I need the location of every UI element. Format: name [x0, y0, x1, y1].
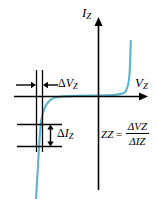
axis-lines	[14, 17, 148, 190]
delta-v-label-delta: Δ	[58, 76, 66, 90]
vertical-axis-arrowhead	[95, 17, 103, 26]
vertical-axis-label: IZ	[82, 6, 91, 21]
delta-i-label: ΔIZ	[57, 127, 73, 141]
delta-v-label-symbol: V	[66, 76, 73, 90]
zener-iv-characteristic-figure: IZ VZ ΔVZ ΔIZ ZZ = ΔVZ ΔIZ	[0, 0, 158, 199]
formula-lhs: ZZ	[101, 128, 113, 140]
formula-fraction: ΔVZ ΔIZ	[126, 120, 149, 147]
horizontal-axis-label: VZ	[135, 76, 148, 91]
formula-numerator: ΔVZ	[126, 120, 149, 133]
formula-numerator-subscript: Z	[141, 120, 147, 132]
formula-denominator-subscript: Z	[139, 135, 145, 147]
delta-v-label-subscript: Z	[73, 82, 78, 91]
zener-impedance-formula: ZZ = ΔVZ ΔIZ	[101, 120, 149, 147]
delta-v-right-arrowhead	[43, 82, 48, 88]
horizontal-axis-label-symbol: V	[135, 75, 143, 90]
delta-v-label: ΔVZ	[58, 77, 78, 91]
formula-numerator-symbol: V	[134, 120, 141, 132]
delta-i-dimension-arrow	[47, 125, 53, 147]
delta-i-label-subscript: Z	[69, 132, 74, 141]
horizontal-axis-arrowhead	[139, 93, 148, 101]
vertical-axis-label-subscript: Z	[86, 11, 91, 21]
diagram-canvas	[0, 0, 158, 199]
delta-v-left-arrowhead	[31, 82, 36, 88]
delta-i-label-delta: Δ	[57, 126, 65, 140]
formula-equals-sign: =	[115, 128, 122, 140]
formula-lhs-subscript: Z	[107, 128, 113, 140]
horizontal-axis-label-subscript: Z	[143, 81, 148, 91]
formula-denominator: ΔIZ	[127, 134, 147, 147]
